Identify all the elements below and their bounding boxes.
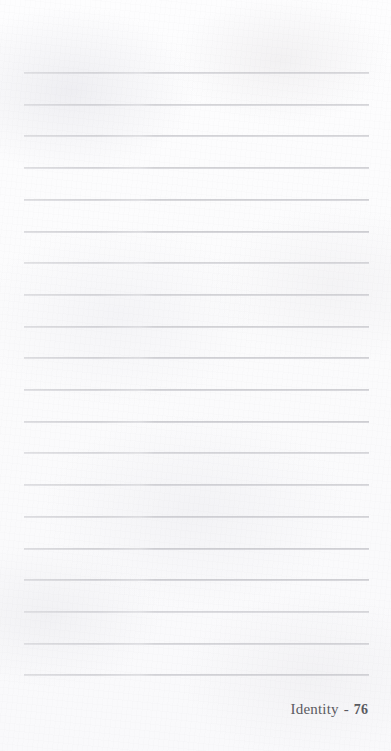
ruled-line <box>24 167 369 169</box>
ruled-lines-group <box>0 0 391 751</box>
ruled-line <box>24 199 369 201</box>
ruled-line <box>24 135 369 137</box>
ruled-line <box>24 421 369 423</box>
ruled-line <box>24 231 369 233</box>
ruled-line <box>24 357 369 359</box>
footer-separator: - <box>343 701 350 717</box>
ruled-line <box>24 452 369 454</box>
notebook-page: Identity - 76 <box>0 0 391 751</box>
page-number: 76 <box>354 702 368 717</box>
ruled-line <box>24 326 369 328</box>
ruled-line <box>24 484 369 486</box>
ruled-line <box>24 674 369 676</box>
ruled-line <box>24 611 369 613</box>
ruled-line <box>24 548 369 550</box>
ruled-line <box>24 72 369 74</box>
ruled-line <box>24 643 369 645</box>
ruled-line <box>24 516 369 518</box>
ruled-line <box>24 389 369 391</box>
footer-book-title: Identity <box>291 701 339 717</box>
ruled-line <box>24 104 369 106</box>
ruled-line <box>24 579 369 581</box>
page-footer: Identity - 76 <box>291 700 368 718</box>
ruled-line <box>24 294 369 296</box>
ruled-line <box>24 262 369 264</box>
